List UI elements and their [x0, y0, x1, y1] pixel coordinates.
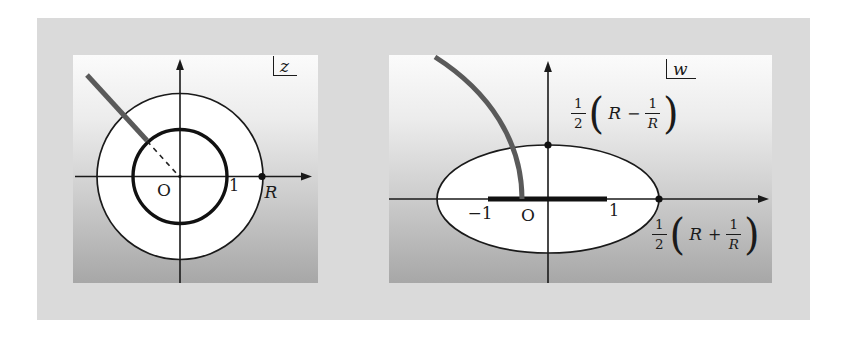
- origin-label: O: [521, 207, 535, 224]
- x-axis-arrow-icon: [301, 173, 312, 181]
- w-plane-tag-letter: w: [673, 59, 688, 79]
- minus-operator: −: [627, 104, 640, 123]
- variable-R: R: [608, 103, 621, 123]
- fraction-numerator: 1: [571, 95, 586, 114]
- z-plane-panel: O 1 R z: [73, 55, 318, 283]
- semi-minor-vertex-dot: [544, 141, 551, 148]
- unit-label: 1: [229, 178, 239, 194]
- fraction-denominator: 2: [574, 114, 583, 132]
- semi-major-formula: 1 2 ( R + 1 R ): [652, 212, 761, 256]
- w-plane-panel: −1 O 1 w 1 2 ( R − 1 R ) 1 2 ( R: [389, 55, 772, 283]
- open-paren: (: [670, 212, 686, 255]
- y-axis-arrow-icon: [176, 59, 184, 70]
- open-paren: (: [589, 91, 605, 134]
- inverse-R-fraction: 1 R: [645, 95, 660, 132]
- variable-R: R: [689, 224, 702, 244]
- radius-label: R: [265, 184, 278, 201]
- fraction-denominator: 2: [655, 235, 664, 253]
- fraction-denominator: R: [729, 235, 739, 253]
- z-plane-drawing: [73, 55, 318, 283]
- origin-dot: [178, 175, 181, 178]
- half-fraction: 1 2: [652, 216, 667, 253]
- close-paren: ): [663, 91, 679, 134]
- semi-minor-formula: 1 2 ( R − 1 R ): [571, 91, 680, 135]
- inverse-R-fraction: 1 R: [726, 216, 741, 253]
- one-label: 1: [609, 203, 619, 219]
- origin-label: O: [157, 182, 171, 199]
- figure-frame: O 1 R z −1 O 1 w: [37, 18, 810, 320]
- point-R-dot: [258, 173, 265, 180]
- semi-major-vertex-dot: [655, 195, 662, 202]
- neg-one-label: −1: [467, 205, 492, 222]
- close-paren: ): [744, 212, 760, 255]
- half-fraction: 1 2: [571, 95, 586, 132]
- y-axis-arrow-icon: [544, 61, 552, 72]
- fraction-denominator: R: [648, 114, 658, 132]
- fraction-numerator: 1: [645, 95, 660, 114]
- plus-operator: +: [708, 225, 721, 244]
- z-plane-tag-letter: z: [280, 56, 289, 76]
- fraction-numerator: 1: [652, 216, 667, 235]
- x-axis-arrow-icon: [758, 195, 769, 203]
- w-plane-tag: w: [666, 59, 696, 79]
- z-plane-tag: z: [273, 56, 297, 76]
- fraction-numerator: 1: [726, 216, 741, 235]
